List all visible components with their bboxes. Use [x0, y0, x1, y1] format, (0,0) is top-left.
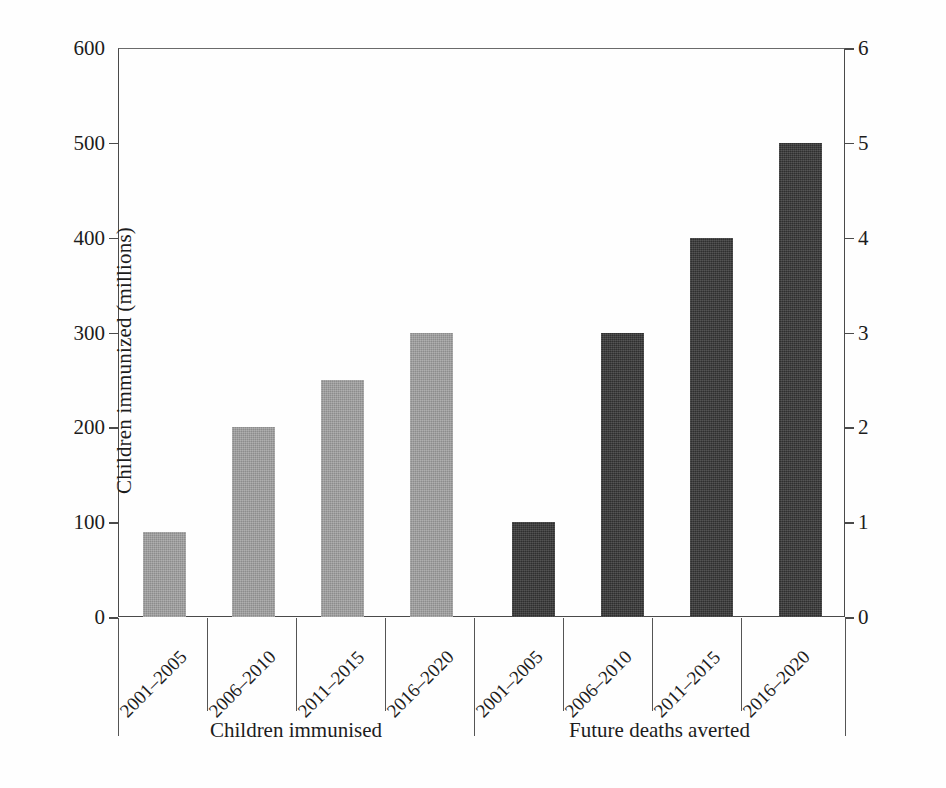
tickmark-right-4: [845, 238, 854, 240]
ytick-right-0: 0: [858, 607, 898, 628]
ytick-left-0: 0: [45, 607, 105, 628]
ytick-right-2: 2: [858, 417, 898, 438]
cat-label-deaths-2006-2010: 2006–2010: [560, 646, 636, 722]
group-label-future-deaths-averted: Future deaths averted: [474, 718, 845, 743]
cat-label-children-2011-2015: 2011–2015: [293, 646, 369, 722]
ytick-left-300: 300: [45, 322, 105, 343]
ytick-left-200: 200: [45, 417, 105, 438]
group-label-children-immunised: Children immunised: [118, 718, 474, 743]
tickmark-left-400: [109, 238, 118, 240]
ytick-right-1: 1: [858, 512, 898, 533]
tickmark-left-500: [109, 143, 118, 145]
cat-label-children-2016-2020: 2016–2020: [382, 646, 458, 722]
chart-figure: Children immunized (millions) Future dea…: [0, 0, 946, 788]
cat-sep-7: [741, 618, 742, 711]
ytick-right-3: 3: [858, 322, 898, 343]
plot-area: Children immunized (millions) Future dea…: [118, 48, 845, 617]
tickmark-left-0: [109, 617, 118, 619]
tickmark-right-6: [845, 48, 854, 50]
tickmark-right-0: [845, 617, 854, 619]
ytick-left-400: 400: [45, 227, 105, 248]
bar-children-immunised-2006-2010: [232, 427, 275, 617]
ytick-left-100: 100: [45, 512, 105, 533]
bar-future-deaths-averted-2006-2010: [601, 333, 644, 618]
left-axis-title: Children immunized (millions): [112, 141, 137, 581]
cat-label-deaths-2001-2005: 2001–2005: [471, 646, 547, 722]
tickmark-right-3: [845, 333, 854, 335]
bar-children-immunised-2016-2020: [410, 333, 453, 618]
cat-sep-2: [296, 618, 297, 711]
ytick-left-500: 500: [45, 132, 105, 153]
cat-label-children-2001-2005: 2001–2005: [115, 646, 191, 722]
tickmark-right-2: [845, 427, 854, 429]
cat-sep-3: [385, 618, 386, 711]
cat-sep-8: [845, 618, 846, 736]
ytick-right-6: 6: [858, 38, 898, 59]
cat-sep-1: [207, 618, 208, 711]
ytick-right-5: 5: [858, 132, 898, 153]
tickmark-left-100: [109, 522, 118, 524]
tickmark-right-5: [845, 143, 854, 145]
tickmark-left-200: [109, 427, 118, 429]
tickmark-right-1: [845, 522, 854, 524]
bar-future-deaths-averted-2001-2005: [512, 522, 555, 617]
cat-label-deaths-2011-2015: 2011–2015: [649, 646, 725, 722]
ytick-right-4: 4: [858, 227, 898, 248]
cat-sep-5: [563, 618, 564, 711]
ytick-left-600: 600: [45, 38, 105, 59]
bar-future-deaths-averted-2016-2020: [779, 143, 822, 617]
tickmark-left-300: [109, 333, 118, 335]
bar-future-deaths-averted-2011-2015: [690, 238, 733, 617]
bar-children-immunised-2001-2005: [143, 532, 186, 617]
cat-label-children-2006-2010: 2006–2010: [204, 646, 280, 722]
bar-children-immunised-2011-2015: [321, 380, 364, 617]
cat-sep-6: [652, 618, 653, 711]
cat-label-deaths-2016-2020: 2016–2020: [738, 646, 814, 722]
